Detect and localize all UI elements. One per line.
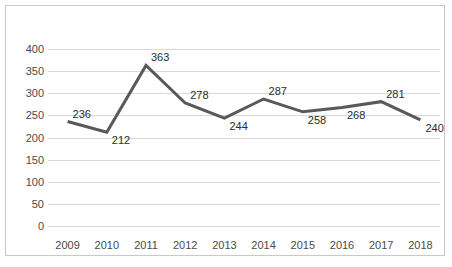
- data-label: 212: [112, 135, 130, 146]
- x-axis-tick-label: 2012: [173, 240, 197, 251]
- data-label: 240: [425, 123, 443, 134]
- chart-frame: 400350300250200150100500 236212363278244…: [5, 5, 445, 256]
- data-label: 281: [386, 89, 404, 100]
- x-axis-tick-label: 2014: [251, 240, 275, 251]
- data-label: 236: [73, 109, 91, 120]
- data-label: 258: [308, 115, 326, 126]
- x-axis-tick-label: 2015: [291, 240, 315, 251]
- x-axis-tick-label: 2013: [212, 240, 236, 251]
- data-label: 363: [151, 52, 169, 63]
- x-axis-tick-label: 2017: [369, 240, 393, 251]
- data-label: 287: [269, 86, 287, 97]
- x-axis-tick-label: 2016: [330, 240, 354, 251]
- data-label: 244: [229, 121, 247, 132]
- data-label: 268: [347, 110, 365, 121]
- x-axis-tick-label: 2010: [95, 240, 119, 251]
- x-axis: 2009201020112012201320142015201620172018: [48, 238, 440, 258]
- x-axis-tick-label: 2011: [134, 240, 158, 251]
- data-label: 278: [190, 90, 208, 101]
- x-axis-tick-label: 2018: [408, 240, 432, 251]
- x-axis-tick-label: 2009: [55, 240, 79, 251]
- plot-area: 400350300250200150100500 236212363278244…: [6, 6, 446, 257]
- line-series: [6, 6, 446, 257]
